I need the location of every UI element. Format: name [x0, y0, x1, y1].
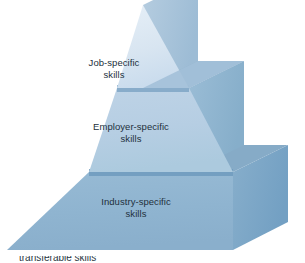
figure-canvas: Job-specific skills Employer-specific sk… — [0, 0, 305, 263]
figure-caption-clipped: transferable skills — [19, 256, 279, 263]
pyramid-graphic — [0, 0, 305, 263]
tier-bottom-front-face — [7, 172, 233, 250]
figure-caption-text: transferable skills — [19, 256, 96, 263]
